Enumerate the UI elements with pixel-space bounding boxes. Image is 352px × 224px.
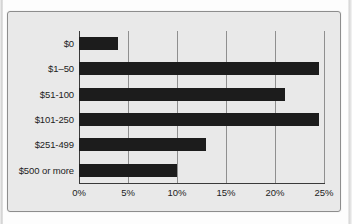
chart-panel: $0 $1–50 $51-100 $101-250 $251-499 $500 … <box>7 11 341 212</box>
y-axis-tick-label: $251-499 <box>35 139 74 150</box>
y-axis-tick-label: $101-250 <box>35 114 74 125</box>
screenshot-root: $0 $1–50 $51-100 $101-250 $251-499 $500 … <box>0 0 352 224</box>
bar-series <box>79 31 324 183</box>
x-axis-labels: 0% 5% 10% 15% 20% 25% <box>79 187 324 201</box>
page-edge-right <box>348 0 352 224</box>
bar <box>79 138 206 151</box>
x-axis-tick-label: 10% <box>167 187 186 198</box>
bar-row <box>79 158 324 183</box>
bar-row <box>79 107 324 132</box>
y-axis-labels: $0 $1–50 $51-100 $101-250 $251-499 $500 … <box>8 31 74 183</box>
bar-chart: $0 $1–50 $51-100 $101-250 $251-499 $500 … <box>8 12 342 213</box>
x-axis-tick-label: 0% <box>72 187 86 198</box>
y-axis-tick-5: $500 or more <box>8 158 74 183</box>
bar-row <box>79 31 324 56</box>
bar <box>79 164 177 177</box>
y-axis-tick-2: $51-100 <box>8 82 74 107</box>
x-axis-tick-label: 5% <box>121 187 135 198</box>
y-axis-tick-label: $0 <box>64 38 74 49</box>
y-axis-tick-4: $251-499 <box>8 132 74 157</box>
bar-row <box>79 132 324 157</box>
gridline-5 <box>324 31 325 183</box>
bar-row <box>79 82 324 107</box>
bar <box>79 62 319 75</box>
y-axis-tick-0: $0 <box>8 31 74 56</box>
y-axis-tick-1: $1–50 <box>8 56 74 81</box>
y-axis-tick-3: $101-250 <box>8 107 74 132</box>
x-axis-tick-label: 20% <box>265 187 284 198</box>
x-axis-line <box>79 183 325 184</box>
y-axis-tick-label: $51-100 <box>40 89 74 100</box>
y-axis-tick-label: $1–50 <box>48 63 74 74</box>
bar <box>79 113 319 126</box>
bar-row <box>79 56 324 81</box>
bar <box>79 37 118 50</box>
y-axis-tick-label: $500 or more <box>19 165 74 176</box>
x-axis-tick-label: 25% <box>314 187 333 198</box>
x-axis-tick-label: 15% <box>216 187 235 198</box>
page-edge-left <box>0 0 3 224</box>
bar <box>79 88 285 101</box>
